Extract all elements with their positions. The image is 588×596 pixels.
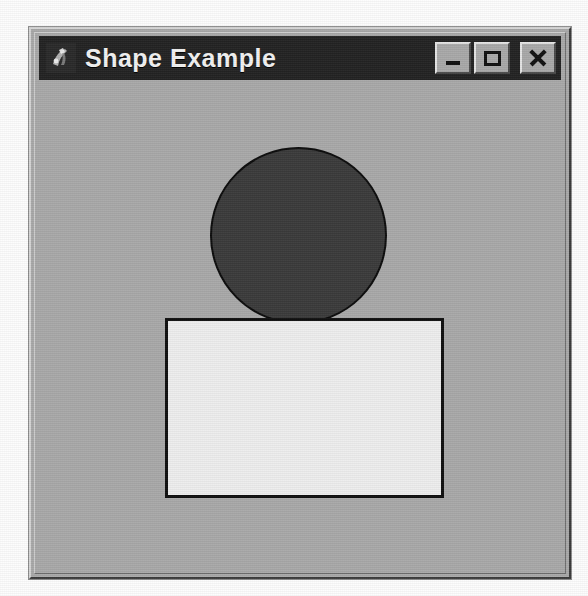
shape-rectangle — [165, 318, 444, 498]
close-icon — [530, 50, 547, 67]
title-bar[interactable]: Shape Example — [39, 36, 561, 80]
maximize-button[interactable] — [474, 42, 510, 74]
close-button[interactable] — [520, 42, 556, 74]
minimize-icon — [446, 61, 460, 65]
window-frame: Shape Example — [34, 32, 566, 574]
maximize-icon — [484, 51, 501, 66]
application-window: Shape Example — [29, 27, 571, 579]
window-controls — [435, 42, 556, 74]
window-title: Shape Example — [85, 46, 435, 71]
minimize-button[interactable] — [435, 42, 471, 74]
application-icon — [46, 43, 76, 73]
shape-circle — [210, 147, 387, 324]
screenshot-root: Shape Example — [0, 0, 588, 596]
drawing-canvas — [39, 80, 561, 569]
